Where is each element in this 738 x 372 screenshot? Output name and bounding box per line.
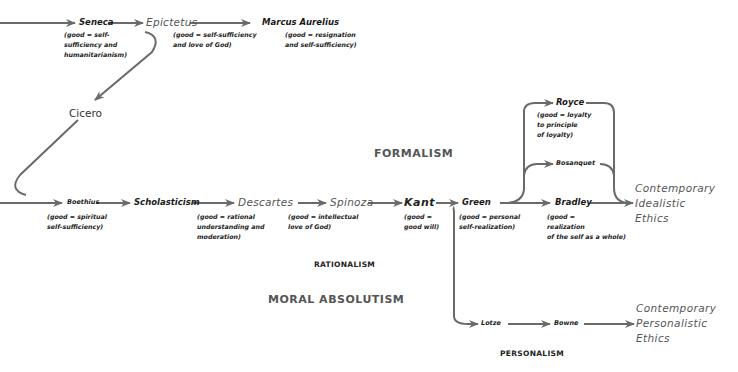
- node-marcus-aurelius: Marcus Aurelius: [262, 18, 339, 27]
- school-formalism: FORMALISM: [374, 147, 453, 160]
- node-bradley: Bradley: [555, 198, 592, 207]
- node-green: Green: [462, 198, 491, 207]
- school-moral-absolutism: MORAL ABSOLUTISM: [268, 293, 404, 306]
- note-green: (good = personal self-realization): [459, 212, 520, 232]
- note-marcus-aurelius: (good = resignation and self-sufficiency…: [285, 30, 357, 50]
- node-royce: Royce: [556, 98, 584, 107]
- outcome-idealistic-ethics: Contemporary Idealistic Ethics: [635, 181, 715, 226]
- node-spinoza: Spinoza: [330, 197, 373, 208]
- node-lotze: Lotze: [481, 320, 501, 327]
- node-descartes: Descartes: [238, 197, 293, 208]
- node-bosanquet: Bosanquet: [556, 160, 595, 167]
- note-descartes: (good = rational understanding and moder…: [197, 212, 264, 242]
- note-boethius: (good = spiritual self-sufficiency): [47, 212, 107, 232]
- node-cicero: Cicero: [69, 108, 102, 119]
- node-seneca: Seneca: [79, 18, 113, 27]
- node-epictetus: Epictetus: [146, 17, 198, 28]
- node-scholasticism: Scholasticism: [134, 198, 200, 207]
- note-seneca: (good = self- sufficiency and humanitari…: [64, 30, 127, 60]
- school-rationalism: RATIONALISM: [314, 260, 375, 269]
- node-boethius: Boethius: [67, 199, 99, 206]
- node-bowne: Bowne: [554, 320, 578, 327]
- note-royce: (good = loyalty to principle of loyalty): [537, 110, 591, 140]
- note-epictetus: (good = self-sufficiency and love of God…: [173, 30, 257, 50]
- outcome-personalistic-ethics: Contemporary Personalistic Ethics: [636, 301, 716, 346]
- node-kant: Kant: [404, 197, 435, 208]
- note-kant: (good = good will): [404, 212, 439, 232]
- note-bradley: (good = realization of the self as a who…: [547, 212, 626, 242]
- note-spinoza: (good = intellectual love of God): [288, 212, 358, 232]
- school-personalism: PERSONALISM: [500, 349, 564, 358]
